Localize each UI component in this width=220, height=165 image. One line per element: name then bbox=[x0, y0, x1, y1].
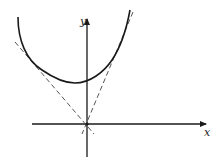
left-tangent-line bbox=[15, 42, 94, 134]
convex-curve bbox=[18, 10, 130, 83]
x-axis-label: x bbox=[204, 127, 210, 138]
origin-point bbox=[85, 122, 88, 125]
y-axis-label: y bbox=[80, 16, 86, 27]
diagram-canvas bbox=[0, 0, 220, 165]
